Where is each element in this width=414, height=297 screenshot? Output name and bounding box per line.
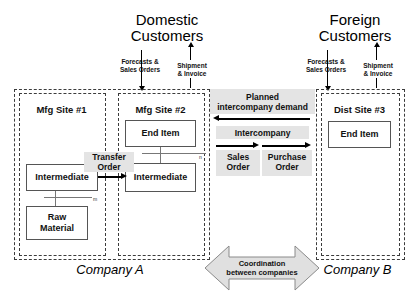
sales-order-label: Sales Order	[216, 152, 260, 172]
coordination-label: Coordination between companies	[203, 242, 321, 294]
site-title-mfg2: Mfg Site #2	[118, 104, 203, 115]
label-line1: Purchase	[262, 152, 312, 162]
label-line2: intercompany demand	[210, 102, 315, 112]
item-box-mfg2-end-item: End Item	[125, 120, 196, 147]
item-label: End Item	[340, 129, 378, 140]
item-label: Intermediate	[134, 172, 188, 183]
label-line1: Forecasts &	[111, 58, 169, 66]
label-line1: Planned	[210, 92, 315, 102]
sales-order-arrow-icon	[216, 145, 254, 147]
label-line2: Sales Orders	[297, 66, 355, 74]
label-line1: Forecasts &	[297, 58, 355, 66]
foreign-customers-line2: Customers	[300, 28, 410, 44]
foreign-outbound-label: Shipment & Invoice	[354, 62, 402, 78]
foreign-customers-title: Foreign Customers	[300, 12, 410, 44]
label-line1: Coordination	[239, 259, 286, 268]
foreign-outbound-arrow-icon	[376, 46, 377, 60]
item-label-line2: Material	[40, 223, 74, 234]
foreign-inbound-label: Forecasts & Sales Orders	[297, 58, 355, 74]
item-label: Intermediate	[35, 172, 89, 183]
bom-connector-horizontal-mfg1	[44, 197, 92, 198]
label-line2: Order	[262, 162, 312, 172]
foreign-inbound-arrow-icon	[327, 50, 328, 87]
transfer-order-label: Transfer Order	[84, 152, 134, 172]
bom-multiplier-mfg1: m	[93, 196, 97, 202]
purchase-order-arrow-icon	[262, 145, 306, 147]
coordination-arrow: Coordination between companies	[203, 242, 321, 294]
bom-connector-drop-mfg1	[55, 197, 56, 206]
domestic-inbound-label: Forecasts & Sales Orders	[111, 58, 169, 74]
label-line2: Sales Orders	[111, 66, 169, 74]
planned-demand-label: Planned intercompany demand	[210, 92, 315, 112]
site-box-dist3	[321, 93, 400, 256]
label-line1: Sales	[216, 152, 260, 162]
bom-connector-horizontal-mfg2	[142, 153, 206, 154]
item-box-mfg1-raw-material: Raw Material	[26, 206, 88, 240]
company-a-caption: Company A	[55, 262, 165, 277]
domestic-outbound-arrow-icon	[190, 46, 191, 60]
domestic-customers-title: Domestic Customers	[112, 12, 222, 44]
purchase-order-label: Purchase Order	[262, 152, 312, 172]
domestic-outbound-arrow-stem	[190, 78, 191, 88]
domestic-inbound-arrow-icon	[141, 50, 142, 87]
item-label-line1: Raw	[48, 212, 67, 223]
label-line2: Order	[84, 162, 134, 172]
item-box-dist3-end-item: End Item	[328, 121, 391, 148]
label-line1: Shipment	[168, 62, 216, 70]
bom-multiplier-mfg2: n	[199, 154, 202, 160]
site-title-dist3: Dist Site #3	[321, 104, 398, 115]
label-line1: Shipment	[354, 62, 402, 70]
domestic-outbound-label: Shipment & Invoice	[168, 62, 216, 78]
label-line2: & Invoice	[354, 70, 402, 78]
label-line2: & Invoice	[168, 70, 216, 78]
domestic-customers-line2: Customers	[112, 28, 222, 44]
domestic-customers-line1: Domestic	[112, 12, 222, 28]
supply-chain-diagram: Domestic Customers Forecasts & Sales Ord…	[0, 0, 414, 297]
transfer-order-arrow-icon	[98, 176, 122, 178]
foreign-customers-line1: Foreign	[300, 12, 410, 28]
intercompany-header-label: Intercompany	[216, 128, 309, 138]
planned-demand-arrow-icon	[218, 118, 310, 120]
foreign-outbound-arrow-stem	[376, 78, 377, 88]
label-line1: Transfer	[84, 152, 134, 162]
item-box-mfg2-intermediate: Intermediate	[125, 163, 196, 192]
site-title-mfg1: Mfg Site #1	[19, 104, 104, 115]
label-line2: between companies	[226, 268, 297, 277]
bom-connector-drop-mfg2	[160, 153, 161, 163]
item-label: End Item	[141, 128, 179, 139]
label-line2: Order	[216, 162, 260, 172]
